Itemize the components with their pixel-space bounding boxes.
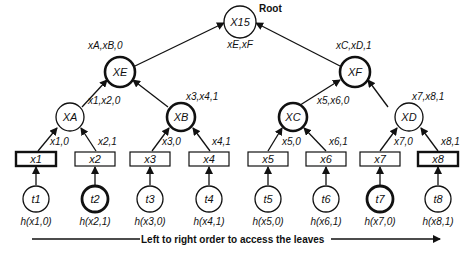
edge-label-xf: xC,xD,1 <box>335 40 372 51</box>
leaf-box-x8: x8 <box>418 152 458 166</box>
edge-x4-xb <box>193 128 210 151</box>
hash-label-7: h(x7,0) <box>364 216 395 227</box>
node-xa-label: XA <box>62 111 78 123</box>
token-edges <box>36 167 438 185</box>
edge-x5-xc <box>268 128 282 151</box>
hash-label-6: h(x6,1) <box>310 216 341 227</box>
leaf-box-x4: x4 <box>189 152 229 166</box>
root-label: X15 <box>229 16 250 28</box>
svg-text:t3: t3 <box>145 193 155 205</box>
root-hash-label: xE,xF <box>226 39 253 50</box>
svg-text:t8: t8 <box>433 193 443 205</box>
svg-text:x8: x8 <box>431 153 445 165</box>
edge-xf-root <box>256 23 340 66</box>
edge-xb-xe <box>133 80 168 107</box>
svg-text:x2: x2 <box>88 153 101 165</box>
svg-text:t7: t7 <box>375 193 385 205</box>
edge-x8-xd <box>421 128 438 151</box>
leaf-box-x7: x7 <box>360 152 400 166</box>
edge-xe-root <box>135 23 224 66</box>
svg-text:x7: x7 <box>373 153 387 165</box>
hash-label-8: h(x8,1) <box>422 216 453 227</box>
node-xb-label: XB <box>173 111 189 123</box>
svg-text:x5: x5 <box>261 153 275 165</box>
edge-label-x7: x7,0 <box>393 136 413 147</box>
edge-label-xa: x1,x2,0 <box>87 95 121 106</box>
token-t4: t4 <box>196 186 222 212</box>
edge-label-x4: x4,1 <box>211 136 231 147</box>
svg-text:x1: x1 <box>29 153 42 165</box>
svg-text:t2: t2 <box>90 193 99 205</box>
merkle-tree-diagram: X15 Root xE,xF XE xA,xB,0 XF xC,xD,1 XA … <box>0 0 475 255</box>
leaf-box-x3: x3 <box>130 152 170 166</box>
token-t8: t8 <box>425 186 451 212</box>
token-t6: t6 <box>313 186 339 212</box>
node-xc-label: XC <box>284 111 300 123</box>
root-tag: Root <box>259 3 282 14</box>
svg-text:x3: x3 <box>143 153 157 165</box>
edge-label-xc: x5,x6,0 <box>316 95 350 106</box>
svg-text:t5: t5 <box>263 193 273 205</box>
hash-label-1: h(x1,0) <box>20 216 51 227</box>
token-t5: t5 <box>255 186 281 212</box>
hash-label-4: h(x4,1) <box>193 216 224 227</box>
edge-xd-xf <box>368 80 388 107</box>
leaf-box-x5: x5 <box>248 152 288 166</box>
hash-label-3: h(x3,0) <box>134 216 165 227</box>
node-xd-label: XD <box>400 111 416 123</box>
edge-label-x8: x8,1 <box>440 136 460 147</box>
edge-label-xe: xA,xB,0 <box>87 40 123 51</box>
hash-label-5: h(x5,0) <box>252 216 283 227</box>
token-t3: t3 <box>137 186 163 212</box>
edge-label-x5: x5,0 <box>281 136 301 147</box>
token-t1: t1 <box>23 186 49 212</box>
token-t7: t7 <box>367 186 393 212</box>
leaf-box-x1: x1 <box>16 152 56 166</box>
edge-label-xb: x3,x4,1 <box>185 91 218 102</box>
token-t2: t2 <box>82 186 108 212</box>
svg-text:x6: x6 <box>319 153 333 165</box>
leaf-box-x2: x2 <box>75 152 115 166</box>
node-xe-label: XE <box>112 66 128 78</box>
order-caption: Left to right order to access the leaves <box>141 234 325 245</box>
node-xf-label: XF <box>347 66 363 78</box>
hash-label-2: h(x2,1) <box>79 216 110 227</box>
edge-label-x3: x3,0 <box>161 136 181 147</box>
svg-text:t6: t6 <box>321 193 331 205</box>
svg-text:x4: x4 <box>202 153 215 165</box>
svg-text:t4: t4 <box>204 193 213 205</box>
edge-label-x1: x1,0 <box>49 136 69 147</box>
leaf-box-x6: x6 <box>306 152 346 166</box>
edge-x6-xc <box>304 128 326 151</box>
edge-x2-xa <box>81 128 96 151</box>
svg-text:t1: t1 <box>31 193 40 205</box>
edge-label-xd: x7,x8,1 <box>411 91 444 102</box>
edge-label-x2: x2,1 <box>97 136 117 147</box>
edge-label-x6: x6,1 <box>328 136 348 147</box>
